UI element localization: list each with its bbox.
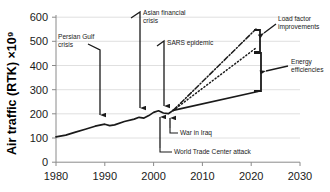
y-tick-label-300: 300 — [30, 84, 48, 96]
wtc-label: World Trade Center attack — [174, 148, 252, 155]
x-tick-label-2030: 2030 — [288, 170, 312, 182]
y-tick-label-500: 500 — [30, 35, 48, 47]
energy-efficiencies-label-line2: efficiencies — [291, 66, 324, 73]
y-tick-label-0: 0 — [42, 156, 48, 168]
air-traffic-chart: 600 500 400 300 200 100 0 1980 1990 2000… — [0, 0, 330, 192]
sars-label: SARS epidemic — [167, 39, 214, 47]
chart-svg: 600 500 400 300 200 100 0 1980 1990 2000… — [0, 0, 330, 192]
asian-crisis-label-line1: Asian financial — [143, 9, 186, 16]
asian-crisis-label-line2: crisis — [143, 17, 159, 24]
load-factor-label-line2: improvements — [278, 23, 320, 31]
y-tick-label-100: 100 — [30, 132, 48, 144]
x-tick-label-2020: 2020 — [239, 170, 263, 182]
x-tick-label-2010: 2010 — [190, 170, 214, 182]
x-tick-label-2000: 2000 — [141, 170, 165, 182]
persian-gulf-label-line1: Persian Gulf — [58, 33, 94, 40]
load-factor-label-line1: Load factor — [278, 15, 312, 22]
y-axis-title: Air traffic (RTK) ×10⁹ — [5, 31, 19, 155]
energy-efficiencies-label-line1: Energy — [291, 58, 313, 66]
y-tick-label-200: 200 — [30, 108, 48, 120]
y-tick-label-400: 400 — [30, 60, 48, 72]
war-in-iraq-label: War in Iraq — [180, 129, 212, 137]
persian-gulf-label-line2: crisis — [58, 41, 74, 48]
y-tick-label-600: 600 — [30, 11, 48, 23]
x-tick-label-1990: 1990 — [93, 170, 117, 182]
x-tick-label-1980: 1980 — [44, 170, 68, 182]
